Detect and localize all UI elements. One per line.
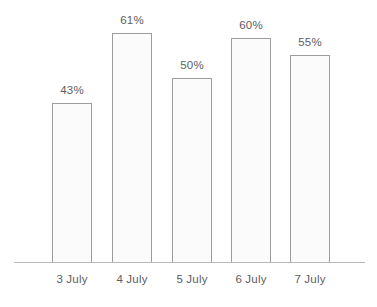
bar-group: 50% [172,60,212,264]
bar-value-label: 43% [60,85,84,97]
bar-value-label: 60% [239,20,263,32]
bar-value-label: 61% [120,15,144,27]
x-axis-labels: 3 July 4 July 5 July 6 July 7 July [0,274,377,294]
x-axis-tick-label: 6 July [221,274,281,286]
bar-value-label: 50% [180,60,204,72]
bar-chart: 43% 61% 50% 60% 55% 3 July 4 July 5 July… [0,0,377,307]
bar-rect[interactable] [231,38,271,263]
bar-group: 61% [112,15,152,264]
x-axis-tick-label: 3 July [42,274,102,286]
bar-rect[interactable] [172,78,212,263]
x-axis-tick-label: 4 July [102,274,162,286]
bar-group: 55% [290,37,330,264]
x-axis-tick-label: 7 July [280,274,340,286]
bar-value-label: 55% [298,37,322,49]
plot-area: 43% 61% 50% 60% 55% [0,0,377,263]
bar-rect[interactable] [290,55,330,263]
bar-group: 60% [231,20,271,264]
bar-group: 43% [52,85,92,264]
bar-rect[interactable] [52,103,92,263]
x-axis-line [14,262,365,263]
bar-rect[interactable] [112,33,152,263]
x-axis-tick-label: 5 July [162,274,222,286]
